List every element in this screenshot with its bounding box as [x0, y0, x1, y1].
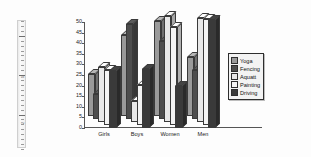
- ruler-tick: [21, 129, 24, 130]
- bar-side-face: [116, 66, 121, 128]
- bar-chart[interactable]: 05101520253035404550GirlsBoysWomenMen Yo…: [60, 18, 300, 144]
- y-axis-tick: [82, 64, 85, 65]
- bar-front-face: [142, 69, 149, 128]
- bar-front-face: [109, 71, 116, 128]
- ruler-number: 2: [21, 118, 25, 127]
- bar-front-face: [208, 20, 215, 128]
- bar-side-face: [182, 81, 187, 128]
- chart-plot-area: 05101520253035404550GirlsBoysWomenMen: [84, 22, 234, 128]
- ruler-tick: [21, 41, 24, 42]
- ruler-tick: [21, 46, 24, 47]
- x-axis-category-label: Men: [198, 131, 209, 137]
- ruler-tick: [21, 149, 24, 150]
- legend-swatch-icon: [231, 65, 238, 72]
- y-axis-tick: [82, 33, 85, 34]
- y-axis-tick: [82, 86, 85, 87]
- ruler-tick: [21, 144, 24, 145]
- y-axis-tick: [82, 22, 85, 23]
- bar[interactable]: [142, 69, 149, 128]
- ruler-tick: [21, 55, 24, 56]
- ruler-tick: [21, 95, 24, 96]
- y-axis-tick: [82, 107, 85, 108]
- ruler-tick: [21, 70, 24, 71]
- document-page: 12 05101520253035404550GirlsBoysWomenMen…: [0, 0, 311, 157]
- ruler-tick: [21, 110, 24, 111]
- x-axis-category-label: Boys: [131, 131, 143, 137]
- legend-item-label: Yoga: [240, 58, 253, 64]
- legend-swatch-icon: [231, 57, 238, 64]
- x-axis-category-label: Girls: [98, 131, 110, 137]
- ruler-tick: [21, 139, 24, 140]
- bar-side-face: [149, 64, 154, 128]
- y-axis-tick: [82, 75, 85, 76]
- y-axis-tick: [82, 128, 85, 129]
- bar-side-face: [215, 15, 220, 128]
- y-axis-tick: [82, 117, 85, 118]
- ruler-major-tick: [19, 36, 25, 37]
- y-axis-tick: [82, 43, 85, 44]
- ruler-tick: [21, 21, 24, 22]
- ruler-tick: [21, 26, 24, 27]
- bar-front-face: [175, 86, 182, 128]
- legend-item[interactable]: Driving: [231, 89, 260, 96]
- legend-swatch-icon: [231, 89, 238, 96]
- ruler-tick: [21, 51, 24, 52]
- legend-item-label: Painting: [240, 82, 260, 88]
- legend-item[interactable]: Aquatt: [231, 73, 260, 80]
- legend-item[interactable]: Painting: [231, 81, 260, 88]
- x-axis-category-label: Women: [160, 131, 179, 137]
- bar[interactable]: [109, 71, 116, 128]
- ruler-major-tick: [19, 115, 25, 116]
- bar[interactable]: [208, 20, 215, 128]
- ruler-tick: [21, 100, 24, 101]
- ruler-tick: [21, 105, 24, 106]
- ruler-tick: [21, 85, 24, 86]
- legend-item[interactable]: Fencing: [231, 65, 260, 72]
- legend-item-label: Fencing: [240, 66, 260, 72]
- ruler-tick: [21, 60, 24, 61]
- chart-legend[interactable]: YogaFencingAquattPaintingDriving: [228, 53, 264, 100]
- ruler-tick: [21, 90, 24, 91]
- ruler-tick: [21, 65, 24, 66]
- legend-item[interactable]: Yoga: [231, 57, 260, 64]
- legend-item-label: Aquatt: [240, 74, 256, 80]
- legend-swatch-icon: [231, 73, 238, 80]
- bar[interactable]: [175, 86, 182, 128]
- y-axis-tick: [82, 54, 85, 55]
- legend-item-label: Driving: [240, 90, 257, 96]
- y-axis-tick: [82, 96, 85, 97]
- ruler-tick: [21, 134, 24, 135]
- vertical-ruler[interactable]: 12: [17, 20, 26, 148]
- ruler-number: 1: [21, 72, 25, 81]
- bar-series-container: [84, 22, 234, 128]
- legend-swatch-icon: [231, 81, 238, 88]
- ruler-tick: [21, 31, 24, 32]
